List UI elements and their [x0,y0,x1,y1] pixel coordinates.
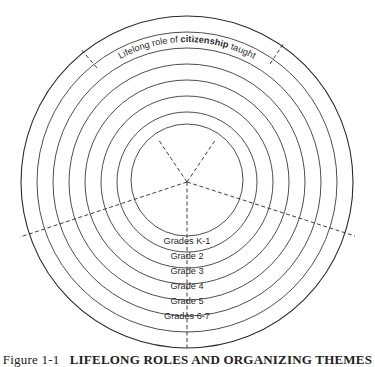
divider-right [187,182,355,236]
divider-left [20,182,187,237]
grade-label: Grade 5 [170,296,203,306]
divider-upper-left-inner [158,139,187,182]
lifelong-roles-diagram: Lifelong role of citizenship taught Grad… [0,0,375,352]
grade-label: Grade 2 [170,251,203,261]
grade-label: Grades 6-7 [164,311,210,321]
figure-title: LIFELONG ROLES AND ORGANIZING THEMES [70,352,372,367]
grade-label: Grades K-1 [164,236,211,246]
divider-upper-left-outer [80,48,97,68]
figure-number: Figure 1-1 [3,352,60,367]
figure-caption: Figure 1-1 LIFELONG ROLES AND ORGANIZING… [0,352,375,367]
grade-label: Grade 4 [170,281,203,291]
grade-label: Grade 3 [170,266,203,276]
divider-upper-right-outer [270,43,284,64]
divider-upper-right-inner [187,139,216,182]
inner-ring [131,124,243,236]
